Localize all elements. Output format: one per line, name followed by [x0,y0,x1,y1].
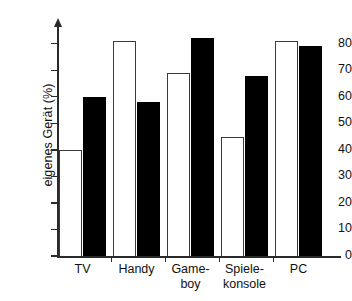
y-axis-tick [51,149,57,150]
bar-black [245,76,268,256]
y-axis-tick [51,229,57,230]
y-axis-tick [51,43,57,44]
bar-black [299,46,322,256]
y-axis-tick [51,176,57,177]
y-axis-tick [51,123,57,124]
x-axis-category-label: PC [267,262,330,277]
x-axis-line [57,256,341,258]
bar-black [137,102,160,256]
bar-black [83,97,106,256]
bar-black [191,38,214,256]
y-axis-label: eigenes Gerät (%) [41,35,55,235]
bar-white [167,73,190,256]
bar-white [113,41,136,256]
y-axis-tick [51,70,57,71]
bar-white [221,137,244,256]
bar-white [59,150,82,256]
bar-white [275,41,298,256]
bar-chart: eigenes Gerät (%) 01020304050607080 TVHa… [0,0,352,301]
y-axis-tick [51,96,57,97]
y-axis-tick [51,255,57,256]
y-axis-tick [51,202,57,203]
